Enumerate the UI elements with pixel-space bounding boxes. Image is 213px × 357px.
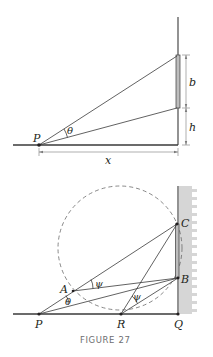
label-h: h [189,121,196,134]
arrowhead [185,141,187,145]
point-p-marker [37,312,40,315]
label-r: R [116,318,125,331]
dashed-circle [58,186,182,310]
sight-line-top [39,56,177,145]
arrowhead [185,55,187,59]
label-p: P [34,318,43,331]
arrowhead [185,104,187,108]
arrowhead [39,151,43,153]
label-b: b [189,76,196,89]
painting [176,55,180,108]
point-q-marker [176,312,179,315]
label-theta: θ [67,125,73,136]
point-c-marker [176,223,179,226]
line-r-c [121,224,177,314]
label-psi-a: ψ [95,278,103,289]
label-p: P [32,132,41,145]
line-a-b [73,278,178,291]
sight-line-bottom [39,108,177,145]
figure-caption: FIGURE 27 [80,335,130,345]
point-b-marker [177,277,180,280]
figure-canvas: P θ b h x [0,0,213,357]
arrowhead [185,108,187,112]
label-psi-r: ψ [133,291,141,302]
label-x: x [105,154,112,167]
painting [176,224,180,278]
label-q: Q [174,318,183,331]
point-r-marker [119,312,122,315]
point-a-marker [72,290,75,293]
label-a: A [59,283,68,296]
label-c: C [181,217,190,230]
label-theta: θ [65,296,71,307]
arrowhead [174,151,178,153]
top-diagram: P θ b h x [13,17,196,167]
label-b: B [180,273,189,286]
angle-psi-arc-a [91,280,93,289]
bottom-diagram: C B A θ ψ ψ P R Q [13,186,197,331]
line-r-b [121,278,178,314]
line-p-c [39,224,177,314]
